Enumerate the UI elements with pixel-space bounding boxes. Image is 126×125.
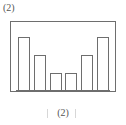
bar	[35, 56, 46, 91]
figure-number-top: (2)	[3, 2, 15, 14]
bar	[98, 38, 109, 91]
bottom-caption-group: (2)	[0, 104, 126, 122]
bar	[66, 74, 77, 91]
right-tick-mark	[75, 109, 79, 118]
chart-frame	[10, 21, 116, 92]
left-tick-mark	[47, 109, 51, 118]
bar	[51, 74, 62, 91]
figure-number-bottom: (2)	[57, 107, 69, 119]
bar-chart	[11, 22, 115, 91]
figure-root: (2) (2)	[0, 0, 126, 125]
bar-group	[16, 38, 110, 91]
bar	[19, 38, 30, 91]
bar	[82, 56, 93, 91]
